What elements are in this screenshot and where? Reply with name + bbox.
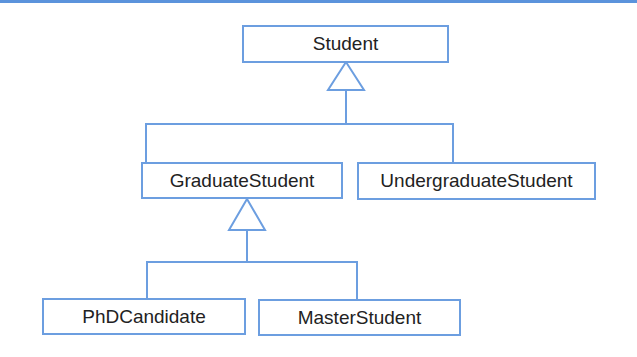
class-name: Student (313, 33, 379, 55)
generalization-arrow-icon (229, 199, 265, 230)
connector-to-phd-master (147, 262, 357, 299)
class-name: PhDCandidate (82, 306, 206, 328)
class-box-undergraduate-student: UndergraduateStudent (357, 162, 596, 200)
class-box-student: Student (242, 25, 449, 63)
class-box-master-student: MasterStudent (258, 299, 461, 336)
generalization-arrow-icon (328, 62, 364, 90)
class-name: UndergraduateStudent (380, 170, 572, 192)
connector-to-graduate (146, 124, 453, 162)
class-box-graduate-student: GraduateStudent (141, 162, 343, 199)
class-box-phd-candidate: PhDCandidate (42, 298, 246, 335)
class-name: GraduateStudent (170, 170, 315, 192)
class-name: MasterStudent (298, 307, 422, 329)
